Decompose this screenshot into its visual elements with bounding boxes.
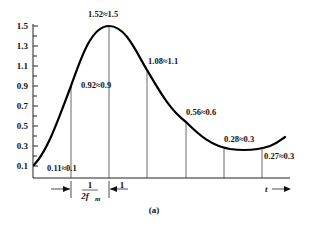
- arrow-right-icon: [63, 186, 70, 192]
- y-tick-label: 0.5: [17, 121, 29, 131]
- arrow-left-icon: [110, 186, 117, 192]
- y-ticks: [33, 26, 38, 166]
- interval-denominator: 2f: [80, 191, 90, 201]
- y-tick-label: 1.3: [17, 41, 29, 51]
- y-tick-label: 0.9: [17, 81, 29, 91]
- sample-label: 0.27≈0.3: [264, 151, 294, 161]
- interval-subscript: m: [95, 195, 101, 203]
- signal-curve: [34, 26, 285, 165]
- sampled-signal-chart: 1.5 1.3 1.1 0.9 0.7 0.5 0.3 0.1 0.11≈0.1…: [0, 0, 315, 226]
- sample-interval-annotation: 1 2f m 1: [51, 180, 128, 203]
- sample-label: 0.92≈0.9: [81, 80, 111, 90]
- sample-label: 0.56≈0.6: [186, 107, 216, 117]
- x-axis-label: t: [265, 184, 291, 194]
- sample-label: 1.08≈1.1: [148, 56, 178, 66]
- interval-numerator-repeat: 1: [120, 180, 125, 190]
- figure-caption: (a): [149, 205, 160, 215]
- y-tick-label: 0.1: [17, 161, 29, 171]
- y-tick-label: 1.5: [17, 21, 29, 31]
- arrow-right-icon: [284, 186, 291, 192]
- y-tick-label: 1.1: [17, 61, 29, 71]
- sample-label: 0.11≈0.1: [47, 163, 77, 173]
- y-tick-label: 0.7: [17, 101, 29, 111]
- y-tick-label: 0.3: [17, 141, 29, 151]
- sample-label: 0.28≈0.3: [224, 134, 254, 144]
- interval-numerator: 1: [88, 180, 93, 190]
- sample-label: 1.52≈1.5: [88, 9, 118, 19]
- svg-text:t: t: [265, 184, 268, 194]
